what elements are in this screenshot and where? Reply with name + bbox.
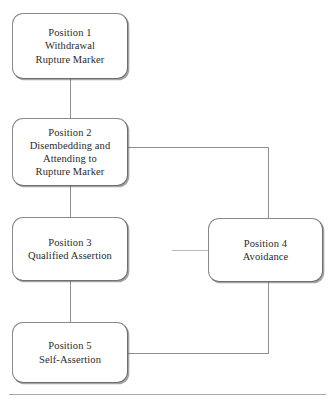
node-position-3-label: Position 3 Qualified Assertion — [24, 236, 116, 262]
connector-position2-to-position4-vertical — [268, 147, 269, 218]
node-position-4[interactable]: Position 4 Avoidance — [208, 218, 323, 282]
node-position-3[interactable]: Position 3 Qualified Assertion — [12, 217, 128, 281]
node-position-1-label: Position 1 Withdrawal Rupture Marker — [32, 26, 109, 66]
connector-position4-to-position5-vertical — [268, 282, 269, 353]
connector-position4-to-position5-horizontal — [128, 353, 269, 354]
flowchart-canvas: Position 1 Withdrawal Rupture Marker Pos… — [0, 0, 335, 402]
node-position-5-label: Position 5 Self-Assertion — [35, 339, 105, 365]
node-position-5[interactable]: Position 5 Self-Assertion — [12, 322, 128, 383]
connector-position3-to-position4 — [172, 250, 208, 251]
connector-position2-to-position4-horizontal — [128, 147, 269, 148]
bottom-divider — [9, 394, 326, 395]
node-position-2-label: Position 2 Disembedding and Attending to… — [26, 126, 115, 179]
connector-position3-to-position5 — [70, 281, 71, 322]
node-position-1[interactable]: Position 1 Withdrawal Rupture Marker — [12, 13, 128, 79]
connector-position1-to-position2 — [70, 79, 71, 118]
connector-position2-to-position3 — [70, 186, 71, 217]
node-position-2[interactable]: Position 2 Disembedding and Attending to… — [12, 118, 128, 186]
node-position-4-label: Position 4 Avoidance — [239, 237, 293, 263]
